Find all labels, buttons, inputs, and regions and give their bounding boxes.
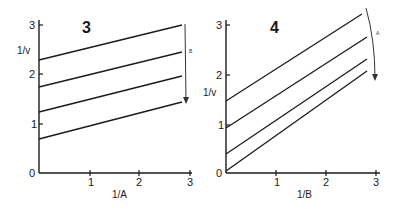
x-tick-label: 2 [136, 176, 142, 188]
y-tick-label: 2 [29, 68, 35, 80]
x-axis-label: 1/B [297, 189, 312, 200]
x-tick-label: 1 [88, 176, 94, 188]
data-line [39, 102, 182, 139]
y-tick-label: 0 [216, 167, 222, 179]
x-axis-label: 1/A [112, 189, 127, 200]
data-line [39, 25, 182, 60]
y-axis-label: 1/v [203, 87, 216, 98]
y-axis-label: 1/v [17, 45, 30, 56]
y-tick-label: 3 [29, 19, 35, 31]
y-tick-label: 0 [29, 167, 35, 179]
x-tick-label: 3 [373, 176, 379, 188]
arrow-icon [366, 8, 378, 81]
y-tick-label: 1 [218, 119, 224, 131]
x-tick-label: 2 [323, 176, 329, 188]
x-tick-label: 1 [274, 176, 280, 188]
x-tick-label: 3 [187, 176, 193, 188]
annotation-label: B [189, 48, 193, 54]
figure: 3 3 2 1 0 1 2 3 1/v 1/A B 4 [0, 0, 397, 209]
chart-title: 4 [270, 19, 279, 36]
y-tick-label: 2 [216, 69, 222, 81]
chart-panel-4: 4 3 2 1 0 1 2 3 1/v 1/B A [203, 8, 380, 200]
arrow-icon [183, 24, 189, 104]
data-line [226, 59, 367, 154]
data-line [226, 71, 367, 171]
chart-title: 3 [82, 19, 91, 36]
chart-panel-3: 3 3 2 1 0 1 2 3 1/v 1/A B [17, 19, 193, 200]
annotation-label: A [376, 30, 380, 36]
y-tick-label: 1 [31, 118, 37, 130]
data-line [226, 37, 367, 128]
y-tick-label: 3 [216, 19, 222, 31]
data-line [226, 14, 362, 101]
